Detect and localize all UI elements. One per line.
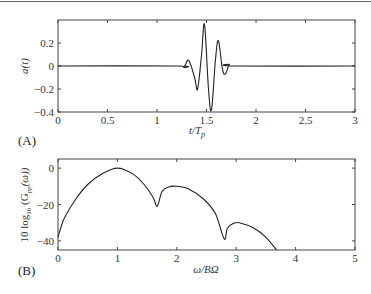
y-tick-label: −20 [37,199,55,211]
plot-b: 012345 0−20−40 ω/BΩ 10 log10 (Gpp(ω)) (B… [18,159,358,278]
y-tick-label: 0.2 [40,37,54,49]
figure: 00.511.522.53 0.20−0.2−0.4 t/Tp a(t) (A)… [0,0,371,294]
x-tick-label: 2.5 [299,114,313,126]
y-tick-label: −0.4 [34,106,54,118]
plot-b-ylabel: 10 log10 (Gpp(ω)) [18,167,33,242]
y-tick-label: −40 [37,235,55,247]
plot-a-waveform-line [58,24,355,111]
plot-b-ytick-labels: 0−20−40 [37,162,55,247]
x-tick-label: 3 [233,252,239,264]
plot-a: 00.511.522.53 0.20−0.2−0.4 t/Tp a(t) (A) [18,20,358,148]
x-tick-label: 1 [154,114,160,126]
y-tick-label: 0 [49,162,55,174]
plot-a-xtick-labels: 00.511.522.53 [55,114,358,126]
panel-label-b: (B) [18,263,35,278]
plot-b-xlabel: ω/BΩ [193,263,219,275]
x-tick-label: 0 [55,252,61,264]
x-tick-label: 0.5 [101,114,115,126]
x-tick-label: 0 [55,114,61,126]
plot-a-ytick-labels: 0.20−0.2−0.4 [34,37,54,118]
y-tick-label: −0.2 [34,83,54,95]
x-tick-label: 3 [352,114,358,126]
plot-b-frame [58,159,355,250]
plot-a-ylabel: a(t) [18,58,31,74]
x-tick-label: 1.5 [200,114,214,126]
plot-b-ticks [58,159,355,250]
plot-a-xlabel: t/Tp [189,124,205,139]
x-tick-label: 2 [253,114,259,126]
x-tick-label: 5 [352,252,358,264]
x-tick-label: 2 [174,252,180,264]
y-tick-label: 0 [49,60,55,72]
plot-b-spectrum-line [58,168,277,250]
x-tick-label: 4 [293,252,299,264]
panel-label-a: (A) [18,133,36,148]
x-tick-label: 1 [115,252,121,264]
